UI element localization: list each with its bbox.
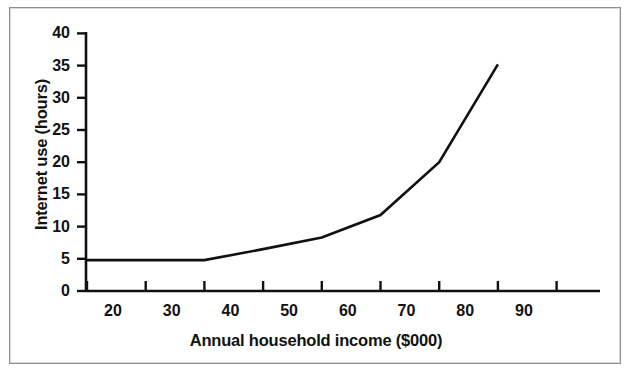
x-axis-ticks	[87, 281, 557, 291]
y-tick-label: 15	[30, 186, 70, 202]
x-tick-label: 70	[387, 303, 427, 319]
y-tick-label: 20	[30, 154, 70, 170]
y-tick-label: 5	[30, 251, 70, 267]
y-tick-label: 10	[30, 219, 70, 235]
line-chart: Internet use (hours) Annual household in…	[0, 0, 634, 379]
x-tick-label: 60	[328, 303, 368, 319]
y-axis-ticks	[77, 33, 86, 291]
x-tick-label: 30	[152, 303, 192, 319]
y-tick-label: 40	[30, 25, 70, 41]
y-tick-label: 25	[30, 122, 70, 138]
x-tick-label: 50	[269, 303, 309, 319]
y-tick-label: 30	[30, 90, 70, 106]
plot-canvas	[0, 0, 634, 379]
data-series-line	[87, 64, 498, 260]
y-tick-label: 0	[30, 283, 70, 299]
x-axis-title: Annual household income ($000)	[86, 331, 546, 350]
x-tick-label: 20	[93, 303, 133, 319]
x-tick-label: 80	[445, 303, 485, 319]
x-tick-label: 90	[504, 303, 544, 319]
x-tick-label: 40	[210, 303, 250, 319]
y-tick-label: 35	[30, 58, 70, 74]
